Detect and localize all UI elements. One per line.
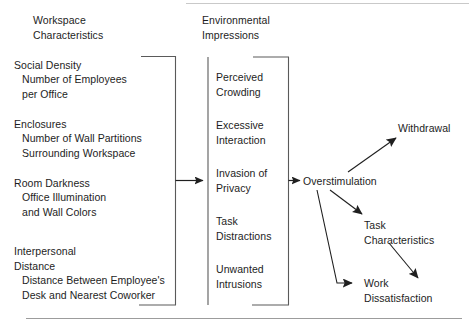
group-enclosures-title: Enclosures xyxy=(14,117,66,132)
node-overstimulation: Overstimulation xyxy=(303,174,377,189)
left-column-header: Workspace Characteristics xyxy=(33,13,103,43)
middle-item-perceived-crowding: Perceived Crowding xyxy=(216,70,263,99)
node-work-dissatisfaction: Work Dissatisfaction xyxy=(364,276,432,305)
middle-item-invasion-of-privacy: Invasion of Privacy xyxy=(216,166,267,195)
group-room-darkness-detail: Office Illumination and Wall Colors xyxy=(22,190,106,219)
arrow-overstimulation-to-task-characteristics xyxy=(330,190,362,214)
group-room-darkness-title: Room Darkness xyxy=(14,176,90,191)
middle-item-unwanted-intrusions: Unwanted Intrusions xyxy=(216,262,264,291)
arrow-overstimulation-to-work-dissatisfaction xyxy=(317,190,352,283)
node-task-characteristics: Task Characteristics xyxy=(364,218,434,247)
left-bracket xyxy=(139,57,176,306)
group-enclosures-detail: Number of Wall Partitions Surrounding Wo… xyxy=(22,131,142,160)
group-social-density-detail: Number of Employees per Office xyxy=(22,72,127,101)
arrow-overstimulation-to-withdrawal xyxy=(348,138,396,172)
middle-item-excessive-interaction: Excessive Interaction xyxy=(216,118,266,147)
node-withdrawal: Withdrawal xyxy=(398,121,450,136)
middle-column-header: Environmental Impressions xyxy=(202,13,270,43)
group-interpersonal-distance-detail: Distance Between Employee's Desk and Nea… xyxy=(22,273,165,302)
group-interpersonal-distance-title: Interpersonal Distance xyxy=(14,244,76,273)
group-social-density-title: Social Density xyxy=(14,58,81,73)
middle-item-task-distractions: Task Distractions xyxy=(216,214,271,243)
arrow-task-characteristics-to-work-dissatisfaction xyxy=(389,243,418,278)
